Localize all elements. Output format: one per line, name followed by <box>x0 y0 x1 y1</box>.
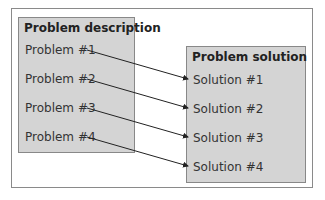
arrow-4 <box>87 137 188 166</box>
arrow-1 <box>87 50 188 79</box>
arrow-3 <box>87 108 188 137</box>
arrow-2 <box>87 79 188 108</box>
connector-arrows <box>0 0 325 200</box>
